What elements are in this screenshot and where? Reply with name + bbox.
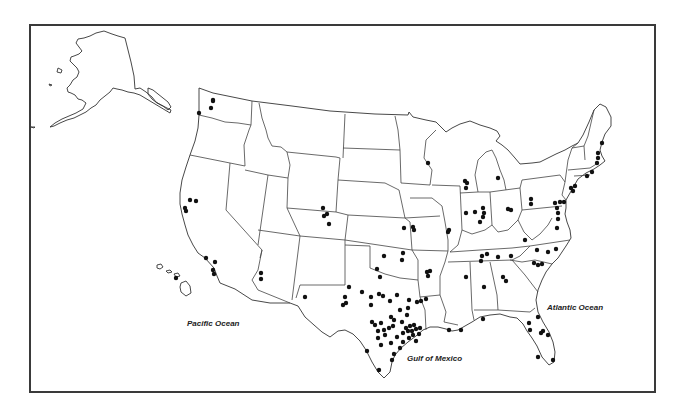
map-point: [590, 170, 594, 174]
map-point: [482, 211, 486, 215]
map-point: [412, 228, 416, 232]
map-point: [428, 269, 432, 273]
map-point: [204, 256, 208, 260]
map-point: [551, 358, 555, 362]
map-point: [398, 346, 402, 350]
map-point: [391, 324, 395, 328]
map-point: [213, 260, 217, 264]
pacific-ocean-label: Pacific Ocean: [187, 319, 239, 328]
map-point: [523, 238, 527, 242]
map-point: [209, 106, 213, 110]
map-point: [419, 299, 423, 303]
map-point: [446, 230, 450, 234]
map-point: [481, 206, 485, 210]
map-point: [407, 298, 411, 302]
map-point: [459, 328, 463, 332]
map-point: [197, 111, 201, 115]
map-point: [211, 98, 215, 102]
map-point: [546, 250, 550, 254]
map-point: [424, 297, 428, 301]
map-point: [174, 276, 178, 280]
map-point: [485, 252, 489, 256]
map-point: [535, 248, 539, 252]
map-point: [573, 184, 577, 188]
map-point: [405, 313, 409, 317]
map-point: [378, 275, 382, 279]
map-point: [390, 358, 394, 362]
map-point: [377, 292, 381, 296]
map-point: [556, 211, 560, 215]
map-point: [528, 328, 532, 332]
map-point: [473, 210, 477, 214]
map-point: [379, 321, 383, 325]
map-point: [389, 341, 393, 345]
map-point: [410, 329, 414, 333]
map-point: [464, 211, 468, 215]
map-point: [211, 268, 215, 272]
map-point: [536, 355, 540, 359]
atlantic-ocean-label: Atlantic Ocean: [547, 303, 603, 312]
map-point: [259, 277, 263, 281]
map-point: [400, 258, 404, 262]
map-point: [343, 295, 347, 299]
map-point: [481, 215, 485, 219]
map-point: [382, 328, 386, 332]
map-point: [411, 333, 415, 337]
map-point: [496, 255, 500, 259]
map-point: [365, 349, 369, 353]
map-point: [347, 285, 351, 289]
map-point: [527, 321, 531, 325]
map-point: [426, 161, 430, 165]
map-point: [529, 197, 533, 201]
map-point: [379, 343, 383, 347]
map-point: [184, 209, 188, 213]
map-point: [398, 308, 402, 312]
map-point: [325, 212, 329, 216]
map-point: [481, 317, 485, 321]
map-point: [417, 332, 421, 336]
map-point: [464, 186, 468, 190]
map-point: [464, 275, 468, 279]
map-point: [382, 254, 386, 258]
data-points: [174, 98, 604, 372]
map-point: [556, 217, 560, 221]
map-point: [480, 254, 484, 258]
map-point: [369, 295, 373, 299]
map-point: [504, 279, 508, 283]
map-point: [376, 329, 380, 333]
map-point: [373, 323, 377, 327]
map-point: [407, 336, 411, 340]
map-point: [536, 263, 540, 267]
map-point: [387, 326, 391, 330]
map-point: [212, 272, 216, 276]
map-point: [303, 295, 307, 299]
map-point: [532, 261, 536, 265]
gulf-of-mexico-label: Gulf of Mexico: [407, 354, 462, 363]
map-point: [478, 220, 482, 224]
map-point: [376, 336, 380, 340]
map-point: [377, 368, 381, 372]
map-point: [426, 274, 430, 278]
map-point: [327, 222, 331, 226]
map-point: [585, 174, 589, 178]
map-point: [555, 206, 559, 210]
map-point: [259, 271, 263, 275]
map-point: [415, 300, 419, 304]
map-point: [571, 189, 575, 193]
map-point: [388, 299, 392, 303]
hawaii-outline: [157, 264, 191, 296]
map-point: [540, 262, 544, 266]
map-point: [595, 161, 599, 165]
map-point: [341, 303, 345, 307]
map-point: [392, 352, 396, 356]
map-point: [562, 200, 566, 204]
map-point: [406, 329, 410, 333]
map-point: [360, 290, 364, 294]
alaska-outline: [31, 31, 171, 128]
map-point: [418, 326, 422, 330]
map-point: [401, 251, 405, 255]
map-point: [496, 176, 500, 180]
map-point: [414, 327, 418, 331]
map-point: [509, 254, 513, 258]
map-point: [554, 247, 558, 251]
